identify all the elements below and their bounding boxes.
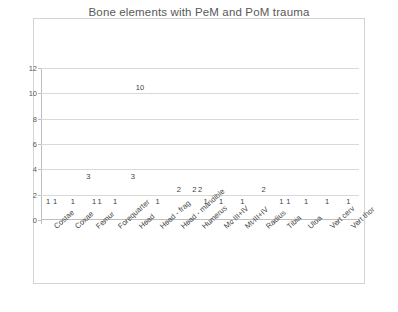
y-axis-tick-label: 6 [33,140,37,149]
y-axis-tick-mark [38,169,41,170]
y-axis-tick-label: 10 [29,89,37,98]
y-axis-tick-label: 8 [33,114,37,123]
bar-value-label: 1 [304,197,308,206]
gridline [41,93,359,94]
plot-area: 11131113101222111211111 024681012 [41,68,359,220]
gridline [41,169,359,170]
bar-value-label: 1 [279,197,283,206]
bar-value-label: 1 [325,197,329,206]
bar-value-label: 2 [192,185,196,194]
bar[interactable]: 1 [303,207,310,220]
bar-value-label: 1 [92,197,96,206]
y-axis-tick-label: 0 [33,216,37,225]
bar[interactable]: 1 [45,207,52,220]
bar[interactable]: 1 [324,207,331,220]
y-axis-tick-label: 12 [29,64,37,73]
gridline [41,68,359,69]
bar-value-label: 2 [198,185,202,194]
bar-value-label: 3 [131,172,135,181]
y-axis-tick-mark [38,93,41,94]
bar-value-label: 1 [46,197,50,206]
y-axis-tick-mark [38,144,41,145]
bar-value-label: 1 [156,197,160,206]
bar-value-label: 1 [98,197,102,206]
y-axis-tick-label: 4 [33,165,37,174]
bar-value-label: 1 [71,197,75,206]
bar-value-label: 1 [113,197,117,206]
bar-value-label: 2 [177,185,181,194]
x-axis-labels: CostaeCoxaeFemurForequarterHeadHead - fr… [41,224,359,304]
y-axis-tick-label: 2 [33,190,37,199]
bar-value-label: 1 [53,197,57,206]
bar-value-label: 1 [286,197,290,206]
bar-value-label: 10 [136,83,144,92]
y-axis-tick-mark [38,119,41,120]
y-axis-tick-mark [38,68,41,69]
chart-title: Bone elements with PeM and PoM trauma [0,6,398,18]
gridline [41,195,359,196]
bar-value-label: 2 [262,185,266,194]
gridline [41,119,359,120]
bar-value-label: 3 [86,172,90,181]
gridline [41,144,359,145]
y-axis-tick-mark [38,195,41,196]
